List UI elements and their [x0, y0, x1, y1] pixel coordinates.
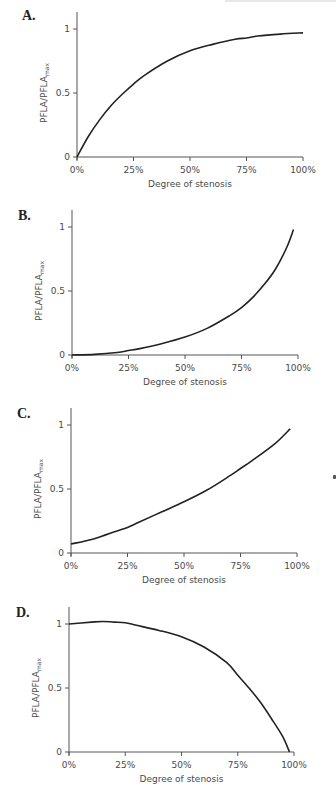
- x-tick-label: 0%: [62, 760, 77, 770]
- chart-d-plot: 0%25%50%75%100%00.51Degree of stenosisPF…: [0, 0, 336, 795]
- data-curve: [69, 621, 290, 752]
- y-axis-label: PFLA/PFLAmax: [31, 658, 42, 719]
- x-tick-label: 100%: [281, 760, 307, 770]
- x-tick-label: 50%: [171, 760, 191, 770]
- y-axis-label-subscript: max: [35, 658, 42, 672]
- x-tick-label: 75%: [228, 760, 248, 770]
- y-tick-label: 0.5: [48, 683, 62, 693]
- y-tick-label: 0: [56, 747, 62, 757]
- y-tick-label: 1: [56, 619, 62, 629]
- x-tick-label: 25%: [115, 760, 135, 770]
- x-axis-label: Degree of stenosis: [140, 774, 224, 784]
